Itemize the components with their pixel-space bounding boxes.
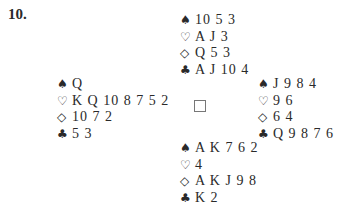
heart-icon: ♡ — [180, 30, 195, 46]
north-hearts: ♡A J 3 — [180, 29, 249, 46]
south-hand: ♠A K 7 6 2 ♡4 ◇A K J 9 8 ♣K 2 — [180, 140, 258, 203]
south-diamonds: ◇A K J 9 8 — [180, 173, 258, 190]
east-hearts: ♡9 6 — [258, 93, 334, 110]
east-hand: ♠J 9 8 4 ♡9 6 ◇6 4 ♣Q 9 8 7 6 — [258, 76, 334, 142]
heart-icon: ♡ — [258, 94, 273, 110]
spade-icon: ♠ — [180, 141, 195, 157]
problem-number: 10. — [8, 6, 27, 23]
west-diamonds: ◇10 7 2 — [57, 109, 169, 126]
diamond-icon: ◇ — [258, 110, 273, 126]
north-clubs: ♣A J 10 4 — [180, 62, 249, 79]
south-spades: ♠A K 7 6 2 — [180, 140, 258, 157]
diamond-icon: ◇ — [180, 174, 195, 190]
spade-icon: ♠ — [180, 13, 195, 29]
east-clubs: ♣Q 9 8 7 6 — [258, 126, 334, 143]
club-icon: ♣ — [258, 127, 273, 143]
east-spades: ♠J 9 8 4 — [258, 76, 334, 93]
north-diamonds: ◇Q 5 3 — [180, 45, 249, 62]
south-clubs: ♣K 2 — [180, 190, 258, 204]
table-square — [194, 100, 206, 112]
west-hearts: ♡K Q 10 8 7 5 2 — [57, 93, 169, 110]
heart-icon: ♡ — [180, 158, 195, 174]
diamond-icon: ◇ — [57, 110, 72, 126]
heart-icon: ♡ — [57, 94, 72, 110]
spade-icon: ♠ — [57, 77, 72, 93]
diamond-icon: ◇ — [180, 46, 195, 62]
west-clubs: ♣5 3 — [57, 126, 169, 143]
west-hand: ♠Q ♡K Q 10 8 7 5 2 ◇10 7 2 ♣5 3 — [57, 76, 169, 142]
north-spades: ♠10 5 3 — [180, 12, 249, 29]
club-icon: ♣ — [180, 191, 195, 204]
west-spades: ♠Q — [57, 76, 169, 93]
club-icon: ♣ — [180, 63, 195, 79]
north-hand: ♠10 5 3 ♡A J 3 ◇Q 5 3 ♣A J 10 4 — [180, 12, 249, 78]
spade-icon: ♠ — [258, 77, 273, 93]
club-icon: ♣ — [57, 127, 72, 143]
east-diamonds: ◇6 4 — [258, 109, 334, 126]
south-hearts: ♡4 — [180, 157, 258, 174]
